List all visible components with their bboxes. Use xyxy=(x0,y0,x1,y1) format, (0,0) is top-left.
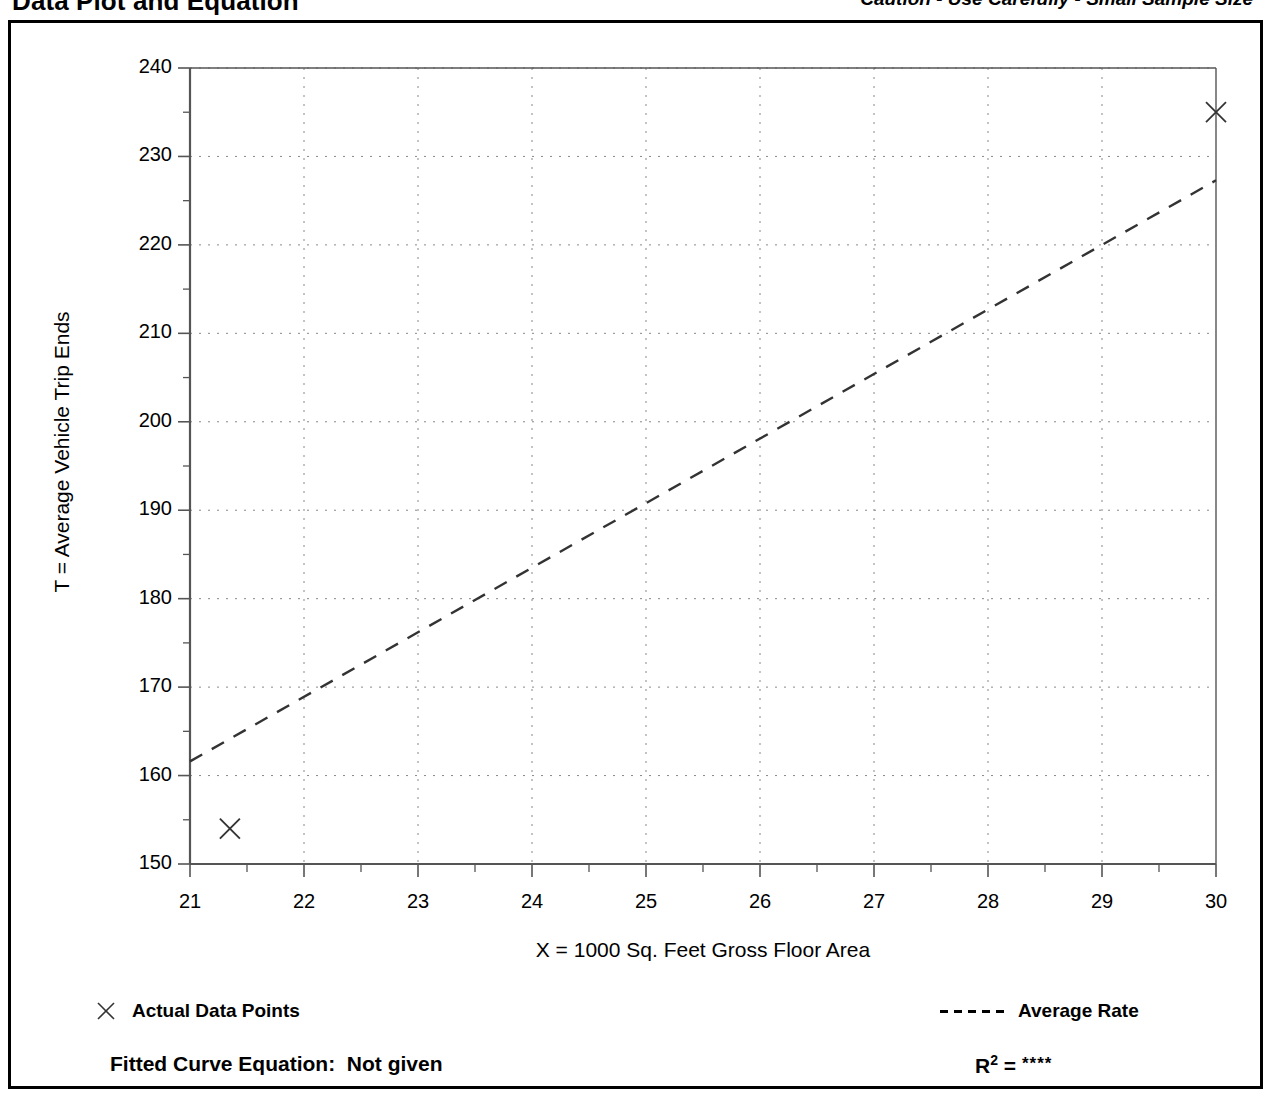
legend-actual-data-points: Actual Data Points xyxy=(96,1000,300,1022)
caution-note: Caution - Use Carefully - Small Sample S… xyxy=(860,0,1253,10)
x-marker-icon xyxy=(96,1001,116,1021)
r2-label: R xyxy=(975,1054,990,1077)
r2-stars: **** xyxy=(1022,1054,1052,1073)
legend-average-rate: Average Rate xyxy=(940,1000,1139,1022)
r2-equals: = xyxy=(1004,1054,1016,1077)
equation-value: Not given xyxy=(347,1052,443,1075)
legend-label-actual-data-points: Actual Data Points xyxy=(132,1000,300,1022)
r-squared-value: R2 = **** xyxy=(975,1052,1052,1078)
page-title: Data Plot and Equation xyxy=(12,0,299,17)
content-frame xyxy=(8,20,1263,1089)
r2-exponent: 2 xyxy=(990,1052,998,1068)
equation-label: Fitted Curve Equation: xyxy=(110,1052,335,1075)
dashed-line-icon xyxy=(940,1010,1004,1013)
legend-label-average-rate: Average Rate xyxy=(1018,1000,1139,1022)
page-header: Data Plot and Equation Caution - Use Car… xyxy=(0,0,1279,18)
fitted-curve-equation: Fitted Curve Equation: Not given xyxy=(110,1052,443,1076)
